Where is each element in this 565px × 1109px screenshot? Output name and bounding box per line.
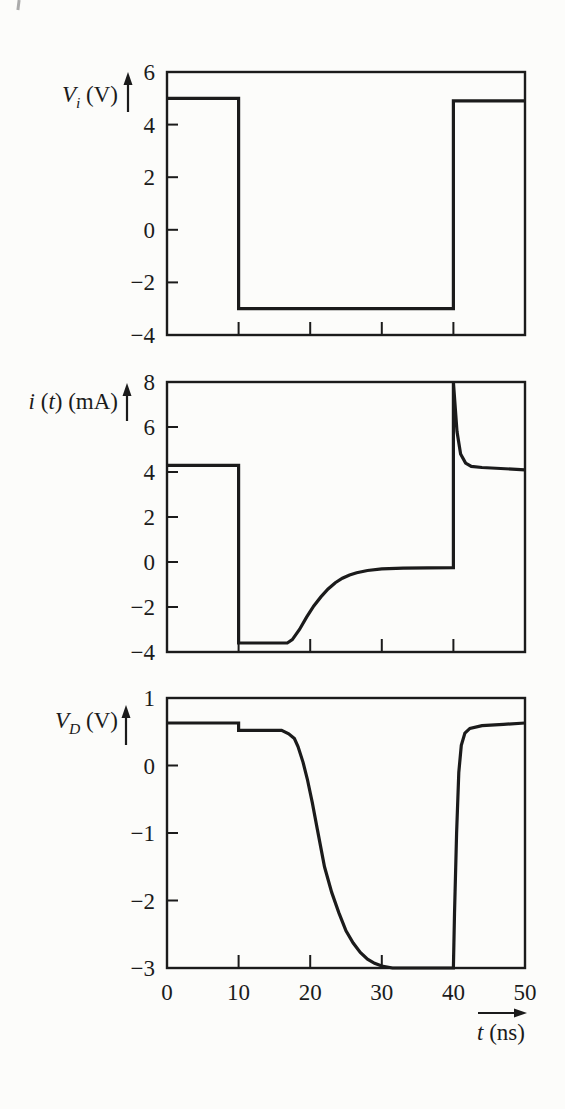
y-tick-label: −2 [131, 270, 155, 295]
y-tick-label: 1 [144, 686, 156, 711]
y-tick-label: 6 [144, 60, 156, 85]
figure-page: 6420−2−486420−2−410−1−2−301020304050 Vi … [0, 0, 565, 1109]
y-tick-label: −3 [131, 956, 155, 981]
y-tick-label: −2 [131, 889, 155, 914]
plot-frame [167, 382, 525, 652]
y-tick-label: 8 [144, 370, 156, 395]
time-axis-arrow [478, 1009, 527, 1018]
y-tick-label: −1 [131, 821, 155, 846]
y-axis-label-diode-current: i (t) (mA) [29, 388, 118, 416]
right-arrow-icon [514, 1009, 527, 1018]
x-tick-label: 50 [514, 980, 537, 1005]
y-tick-label: 2 [144, 165, 156, 190]
y-tick-label: −4 [131, 323, 156, 348]
y-tick-label: 0 [144, 218, 156, 243]
series-diode-voltage [167, 723, 525, 968]
x-tick-label: 0 [161, 980, 173, 1005]
up-arrow-icon [124, 72, 133, 85]
up-arrow-icon [122, 705, 131, 718]
input-voltage-chart: 6420−2−4 [124, 60, 526, 348]
y-tick-label: 0 [144, 754, 156, 779]
up-arrow-icon [123, 383, 132, 396]
y-axis-label-diode-voltage: VD (V) [55, 707, 118, 735]
diode-current-chart: 86420−2−4 [123, 370, 526, 665]
series-input-voltage [167, 98, 525, 308]
plot-frame [167, 72, 525, 335]
y-tick-label: 4 [144, 460, 156, 485]
y-axis-label-input-voltage: Vi (V) [62, 81, 118, 109]
y-tick-label: 4 [144, 113, 156, 138]
y-tick-label: −4 [131, 640, 156, 665]
y-tick-label: 2 [144, 505, 156, 530]
series-diode-current [167, 382, 525, 643]
y-tick-label: 0 [144, 550, 156, 575]
x-tick-label: 20 [299, 980, 322, 1005]
x-tick-label: 30 [370, 980, 393, 1005]
y-tick-label: −2 [131, 595, 155, 620]
x-tick-label: 10 [227, 980, 250, 1005]
x-tick-label: 40 [442, 980, 465, 1005]
waveform-charts-canvas: 6420−2−486420−2−410−1−2−301020304050 [0, 0, 565, 1109]
x-axis-label-time: t (ns) [470, 1019, 532, 1047]
diode-voltage-chart: 10−1−2−301020304050 [122, 686, 537, 1005]
y-tick-label: 6 [144, 415, 156, 440]
